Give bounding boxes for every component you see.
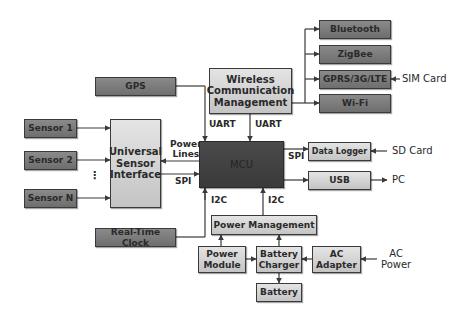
power-module-block: Power Module [198,246,246,273]
wireless-label-line2: Communication [207,85,295,97]
usb-block: USB [308,171,371,190]
gps-block: GPS [95,77,176,96]
bluetooth-block: Bluetooth [319,20,391,39]
uart-right-label: UART [255,120,282,130]
data-logger-label: Data Logger [312,147,367,156]
spi-left-label: SPI [175,177,191,187]
i2c-right-label: I2C [268,196,284,206]
power-lines-line2: Lines [170,150,202,160]
wireless-label-line3: Management [214,97,288,109]
ac-adapter-line2: Adapter [316,260,357,270]
sd-card-label: SD Card [392,145,433,156]
gprs-label: GPRS/3G/LTE [323,74,387,84]
wireless-label-line1: Wireless [226,74,274,86]
sensor-1-label: Sensor 1 [28,123,72,133]
ac-power-label: AC Power [381,248,411,270]
spi-right-label: SPI [288,152,304,162]
battery-charger-block: Battery Charger [256,246,302,273]
wifi-label: Wi-Fi [342,98,368,108]
universal-sensor-interface-block: Universal Sensor Interface [110,119,161,208]
battery-charger-line2: Charger [259,260,300,270]
sensor-2-label: Sensor 2 [28,155,72,165]
uart-left-label: UART [209,120,236,130]
sim-card-label: SIM Card [402,73,447,84]
sensor-2-block: Sensor 2 [24,151,77,170]
battery-block: Battery [256,283,302,302]
data-logger-block: Data Logger [308,142,371,161]
i2c-left-label: I2C [211,196,227,206]
power-lines-label: Power Lines [170,140,202,160]
sensor-1-block: Sensor 1 [24,119,77,138]
usi-label-line3: Interface [110,169,161,181]
ac-power-line2: Power [381,259,411,270]
power-module-line2: Module [203,260,240,270]
ac-adapter-line1: AC [330,249,344,259]
rtc-label: Real-Time Clock [96,227,175,248]
power-management-block: Power Management [211,215,317,235]
battery-charger-line1: Battery [260,249,298,259]
real-time-clock-block: Real-Time Clock [95,228,176,247]
sensor-n-label: Sensor N [28,193,74,203]
power-management-label: Power Management [213,220,314,230]
wifi-block: Wi-Fi [319,94,391,113]
sensor-n-block: Sensor N [24,189,77,208]
gps-label: GPS [125,81,145,91]
wireless-communication-management-block: Wireless Communication Management [209,68,292,114]
power-module-line1: Power [206,249,238,259]
usb-label: USB [329,175,350,185]
mcu-label: MCU [230,159,253,171]
usi-label-line2: Sensor [116,158,155,170]
usi-label-line1: Universal [109,146,162,158]
gprs-block: GPRS/3G/LTE [319,70,391,89]
mcu-block: MCU [199,141,284,188]
zigbee-block: ZigBee [319,45,391,64]
ac-power-line1: AC [381,248,411,259]
ac-adapter-block: AC Adapter [312,246,361,273]
zigbee-label: ZigBee [337,49,372,59]
battery-label: Battery [260,287,298,297]
sensor-ellipsis: ⋮ [89,170,100,182]
bluetooth-label: Bluetooth [330,24,380,34]
pc-label: PC [392,174,405,185]
